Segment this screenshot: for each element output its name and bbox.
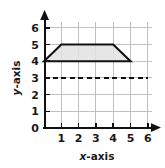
y-tick-label-6: 6 — [31, 22, 39, 35]
y-tick-label-0: 0 — [31, 122, 39, 135]
gridlines — [44, 22, 152, 128]
chart-screenshot: 0 1 2 3 4 5 6 1 2 3 4 5 6 x-axis y-axis — [0, 0, 165, 168]
y-axis-arrowhead-icon — [40, 10, 49, 20]
y-tick-label-5: 5 — [31, 39, 39, 52]
y-axis-title: y-axis — [10, 61, 22, 96]
y-axis-title-suffix: -axis — [10, 61, 22, 89]
x-tick-label-1: 1 — [57, 132, 65, 145]
x-tick-label-3: 3 — [92, 132, 100, 145]
trapezoid-fill — [44, 45, 131, 62]
x-axis-arrowhead-icon — [151, 123, 161, 132]
y-tick-label-2: 2 — [31, 89, 39, 102]
y-tick-label-1: 1 — [31, 105, 39, 118]
x-tick-label-5: 5 — [127, 132, 135, 145]
y-tick-label-4: 4 — [31, 55, 39, 68]
coordinate-plane-chart: 0 1 2 3 4 5 6 1 2 3 4 5 6 x-axis y-axis — [0, 0, 165, 168]
y-tick-label-3: 3 — [31, 72, 39, 85]
axes — [40, 10, 161, 132]
trapezoid-shape — [44, 45, 131, 62]
x-tick-label-2: 2 — [75, 132, 83, 145]
x-tick-label-4: 4 — [109, 132, 117, 145]
x-axis-title-suffix: -axis — [86, 150, 114, 162]
x-tick-label-6: 6 — [144, 132, 152, 145]
x-axis-title: x-axis — [79, 150, 115, 162]
y-axis-tick-labels: 0 1 2 3 4 5 6 — [31, 22, 39, 135]
x-axis-tick-labels: 1 2 3 4 5 6 — [57, 132, 152, 145]
